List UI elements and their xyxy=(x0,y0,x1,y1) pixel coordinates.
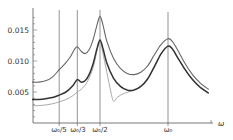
ytick-label-0.015: 0.015 xyxy=(8,26,30,35)
vertical-reference-lines xyxy=(59,10,168,123)
ytick-label-0.005: 0.005 xyxy=(8,88,30,97)
frequency-response-chart: 0.005 0.010 0.015 ω₀/5 ω₀/3 ω₀/2 ω₀ ω xyxy=(0,0,233,140)
ytick-label-0.010: 0.010 xyxy=(8,57,30,66)
x-axis-label: ω xyxy=(218,119,224,128)
data-series xyxy=(32,16,209,105)
xtick-label-omega0-over-3: ω₀/3 xyxy=(70,126,85,134)
xtick-label-omega0: ω₀ xyxy=(164,126,173,134)
series-upper-curve xyxy=(32,16,209,89)
xtick-label-omega0-over-2: ω₀/2 xyxy=(92,126,107,134)
axis-labels: 0.005 0.010 0.015 ω₀/5 ω₀/3 ω₀/2 ω₀ ω xyxy=(8,26,225,134)
xtick-label-omega0-over-5: ω₀/5 xyxy=(51,126,66,134)
axes xyxy=(33,8,213,126)
plot-area: 0.005 0.010 0.015 ω₀/5 ω₀/3 ω₀/2 ω₀ ω xyxy=(0,0,233,140)
